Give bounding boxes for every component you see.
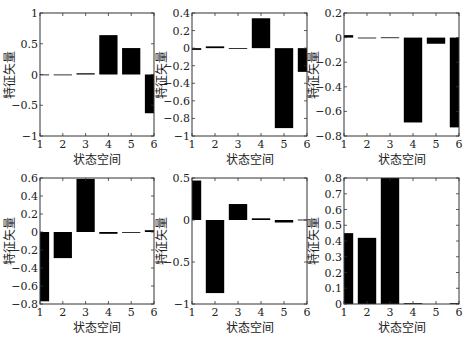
y-tick-label: 0.8 [325, 172, 343, 185]
x-tick-label: 4 [258, 306, 265, 319]
bars [183, 181, 316, 294]
y-axis-label: 特征矢量 [154, 217, 169, 265]
bar-5 [275, 48, 293, 128]
y-axis-label: 特征矢量 [2, 51, 17, 99]
x-axis-label: 状态空间 [226, 321, 274, 335]
x-tick-label: 2 [59, 306, 66, 319]
y-tick-label: 0 [31, 69, 38, 82]
y-tick-label: 0 [335, 32, 342, 45]
x-tick-label: 2 [364, 306, 371, 319]
x-tick-label: 3 [82, 306, 89, 319]
y-tick-label: −0.6 [315, 105, 342, 118]
x-tick-label: 5 [433, 306, 440, 319]
x-tick-label: 4 [410, 138, 417, 151]
y-tick-label: 0.7 [325, 188, 343, 201]
bar-2 [206, 46, 224, 48]
y-axis-label: 特征矢量 [306, 51, 321, 99]
bars [335, 178, 468, 305]
x-tick-label: 6 [151, 138, 158, 151]
bar-3 [76, 179, 94, 232]
eigenvector-bar-chart-grid: 123456−1−0.500.51状态空间特征矢量123456−1−0.8−0.… [0, 0, 468, 340]
y-tick-label: 0.6 [325, 204, 343, 217]
y-tick-label: 0 [183, 42, 190, 55]
y-tick-label: −0.8 [11, 298, 38, 311]
x-axis-label: 状态空间 [226, 153, 274, 167]
x-tick-label: 6 [456, 138, 463, 151]
x-tick-label: 6 [151, 306, 158, 319]
x-tick-label: 6 [304, 138, 311, 151]
subplot-row1-col1: 123456−1−0.500.51状态空间特征矢量 [2, 7, 163, 167]
bar-2 [54, 232, 72, 258]
x-tick-label: 5 [281, 306, 288, 319]
bar-2 [54, 75, 72, 76]
bar-4 [252, 218, 270, 220]
subplot-row2-col2: 123456−1−0.500.5状态空间特征矢量 [154, 172, 316, 335]
x-tick-label: 5 [433, 138, 440, 151]
subplot-row2-col1: 123456−0.8−0.6−0.4−0.200.20.40.6状态空间特征矢量 [2, 172, 163, 335]
x-tick-label: 2 [59, 138, 66, 151]
x-tick-label: 3 [387, 138, 394, 151]
y-axis-label: 特征矢量 [154, 51, 169, 99]
x-tick-label: 4 [258, 138, 265, 151]
bar-4 [404, 38, 422, 123]
y-tick-label: 0.2 [325, 267, 343, 280]
y-tick-label: 0.3 [325, 251, 343, 264]
y-axis-label: 特征矢量 [306, 217, 321, 265]
y-tick-label: 0.1 [325, 282, 343, 295]
y-tick-label: 0.2 [325, 7, 343, 20]
x-tick-label: 5 [281, 138, 288, 151]
x-tick-label: 3 [235, 138, 242, 151]
x-axis-label: 状态空间 [73, 153, 121, 167]
y-tick-label: −0.8 [315, 130, 342, 143]
y-tick-label: −1 [22, 130, 38, 143]
y-tick-label: 0.4 [21, 190, 39, 203]
x-tick-label: 4 [105, 306, 112, 319]
bars [183, 18, 316, 128]
x-axis-label: 状态空间 [378, 321, 426, 335]
bar-3 [381, 37, 399, 38]
y-tick-label: 0.2 [21, 208, 39, 221]
bar-5 [122, 232, 140, 233]
bar-3 [229, 48, 247, 49]
subplot-row2-col3: 12345600.10.20.30.40.50.60.70.8状态空间特征矢量 [306, 172, 468, 335]
y-tick-label: 1 [31, 7, 38, 20]
axes-frame [344, 13, 459, 136]
bar-5 [122, 48, 140, 74]
x-axis-label: 状态空间 [378, 153, 426, 167]
x-tick-label: 3 [82, 138, 89, 151]
bars [335, 35, 468, 127]
subplot-row1-col2: 123456−1−0.8−0.6−0.4−0.200.20.4状态空间特征矢量 [154, 7, 316, 167]
bar-4 [99, 232, 117, 234]
y-tick-label: 0 [183, 214, 190, 227]
x-tick-label: 3 [387, 306, 394, 319]
x-tick-label: 2 [212, 306, 219, 319]
y-tick-label: −0.6 [11, 280, 38, 293]
y-tick-label: 0.4 [173, 7, 191, 20]
x-tick-label: 4 [105, 138, 112, 151]
y-tick-label: −1 [174, 130, 190, 143]
x-tick-label: 2 [364, 138, 371, 151]
bar-2 [358, 238, 376, 304]
y-tick-label: 0 [335, 298, 342, 311]
bar-5 [427, 38, 445, 44]
y-tick-label: −0.5 [11, 99, 38, 112]
y-tick-label: 0.6 [21, 172, 39, 185]
y-axis-label: 特征矢量 [2, 217, 17, 265]
y-tick-label: 0.5 [21, 38, 39, 51]
y-tick-label: 0.5 [325, 219, 343, 232]
y-tick-label: 0.4 [325, 235, 343, 248]
bar-4 [252, 18, 270, 48]
y-tick-label: 0.5 [173, 172, 191, 185]
x-tick-label: 6 [304, 306, 311, 319]
y-tick-label: −0.8 [163, 112, 190, 125]
y-tick-label: 0.2 [173, 25, 191, 38]
x-tick-label: 6 [456, 306, 463, 319]
bar-2 [206, 220, 224, 293]
bars [31, 179, 163, 301]
bar-3 [381, 178, 399, 304]
bars [31, 35, 163, 113]
x-tick-label: 5 [128, 306, 135, 319]
bar-2 [358, 38, 376, 39]
x-tick-label: 5 [128, 138, 135, 151]
x-tick-label: 4 [410, 306, 417, 319]
